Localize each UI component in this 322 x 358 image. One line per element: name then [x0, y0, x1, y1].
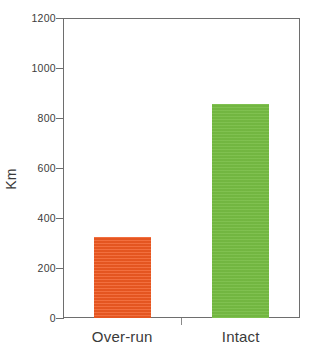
- bars-layer: [63, 18, 300, 318]
- y-axis-tick-labels: 020040060080010001200: [18, 0, 56, 358]
- x-axis-category-label: Over-run: [62, 328, 182, 345]
- y-axis-tick-mark: [56, 318, 64, 319]
- x-axis-category-label: Intact: [181, 328, 301, 345]
- y-axis-tick-label: 400: [18, 213, 56, 224]
- y-axis-tick-label: 600: [18, 163, 56, 174]
- y-axis-tick-label: 1200: [18, 13, 56, 24]
- x-axis-tick-center: [181, 318, 182, 325]
- bar-over-run[interactable]: [94, 237, 151, 318]
- bar-chart: Km 020040060080010001200 Over-runIntact: [0, 0, 322, 358]
- bar-intact[interactable]: [212, 104, 269, 318]
- y-axis-tick-label: 200: [18, 263, 56, 274]
- y-axis-tick-label: 0: [18, 313, 56, 324]
- y-axis-tick-label: 800: [18, 113, 56, 124]
- y-axis-title-text: Km: [3, 168, 19, 189]
- y-axis-tick-label: 1000: [18, 63, 56, 74]
